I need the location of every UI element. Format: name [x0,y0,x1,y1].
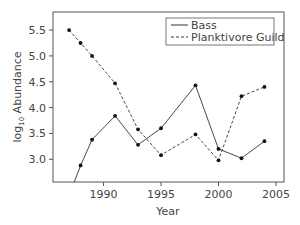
y-tick-label: 3.5 [29,127,47,140]
data-point-planktivore-guild [217,158,221,162]
data-point-planktivore-guild [136,127,140,131]
series-line-planktivore-guild [69,30,264,160]
y-tick-label: 5.0 [29,50,47,63]
data-point-bass [159,126,163,130]
x-axis: 1990199520002005 [90,182,290,201]
x-tick-label: 1990 [90,188,118,201]
y-axis: 3.03.54.04.55.05.5 [29,24,54,166]
y-tick-label: 4.5 [29,76,47,89]
series-line-bass [69,85,264,195]
data-point-planktivore-guild [159,153,163,157]
x-tick-label: 1995 [147,188,175,201]
y-axis-label: log10 Abundance [11,51,26,142]
y-tick-label: 3.0 [29,153,47,166]
data-point-bass [194,83,198,87]
data-point-planktivore-guild [263,85,267,89]
x-tick-label: 2005 [262,188,290,201]
data-point-bass [136,143,140,147]
y-tick-label: 5.5 [29,24,47,37]
series-layer [67,28,266,195]
data-point-bass [240,156,244,160]
data-point-planktivore-guild [113,81,117,85]
data-point-planktivore-guild [67,28,71,32]
y-tick-label: 4.0 [29,102,47,115]
data-point-bass [79,164,83,168]
x-axis-label: Year [155,205,180,218]
data-point-bass [263,139,267,143]
data-point-bass [217,147,221,151]
data-point-planktivore-guild [240,94,244,98]
data-point-bass [90,138,94,142]
legend-label-planktivore: Planktivore Guild [191,31,285,44]
x-tick-label: 2000 [204,188,232,201]
data-point-bass [113,114,117,118]
data-point-planktivore-guild [194,133,198,137]
data-point-planktivore-guild [90,54,94,58]
legend: Bass Planktivore Guild [166,18,285,45]
data-point-planktivore-guild [79,41,83,45]
line-chart: 3.03.54.04.55.05.5 1990199520002005 Bass… [0,0,300,225]
